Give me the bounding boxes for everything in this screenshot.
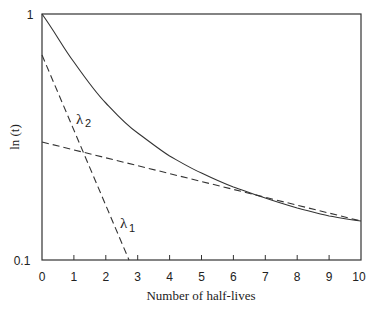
lambda1-annotation: λ 1: [120, 215, 135, 234]
x-tick-4: 4: [166, 270, 173, 284]
chart: 0 1 2 3 4 5 6 7 8 9 10 1 0.1 Number of h…: [0, 0, 377, 309]
lambda1-subscript: 1: [129, 222, 135, 234]
x-axis-title: Number of half-lives: [146, 288, 255, 303]
plot-frame: [42, 14, 361, 260]
lambda2-subscript: 2: [85, 117, 91, 129]
y-axis-title: ln (t): [7, 124, 22, 150]
lambda1-line: [42, 55, 129, 260]
x-tick-8: 8: [294, 270, 301, 284]
x-tick-0: 0: [39, 270, 46, 284]
y-tick-bottom: 0.1: [14, 254, 31, 268]
x-tick-2: 2: [102, 270, 109, 284]
x-tick-1: 1: [71, 270, 78, 284]
x-tick-7: 7: [262, 270, 269, 284]
x-tick-9: 9: [326, 270, 333, 284]
y-tick-top: 1: [27, 8, 34, 22]
x-tick-10: 10: [352, 270, 366, 284]
lambda2-symbol: λ: [76, 111, 84, 127]
lambda2-annotation: λ 2: [76, 111, 91, 129]
lambda2-line: [42, 142, 361, 221]
x-tick-5: 5: [198, 270, 205, 284]
lambda1-symbol: λ: [120, 215, 128, 231]
x-tick-6: 6: [230, 270, 237, 284]
x-tick-3: 3: [134, 270, 141, 284]
x-ticks: [74, 255, 329, 260]
x-tick-labels: 0 1 2 3 4 5 6 7 8 9 10: [39, 270, 366, 284]
